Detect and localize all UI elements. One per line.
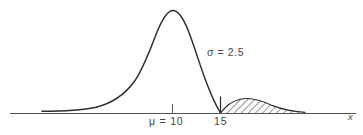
x-axis-label: x [348, 112, 353, 122]
sigma-annotation-label: σ = 2.5 [207, 47, 244, 58]
mean-tick-label: μ = 10 [149, 116, 184, 127]
cutoff-tick-label: 15 [214, 116, 227, 127]
normal-distribution-figure: σ = 2.5 μ = 10 15 x [0, 0, 363, 135]
right-tail-shaded-region [221, 98, 306, 113]
normal-curve [42, 10, 221, 113]
